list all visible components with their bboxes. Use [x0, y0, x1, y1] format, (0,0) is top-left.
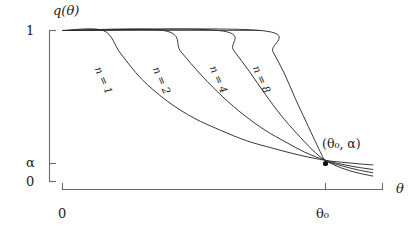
- power-function-figure: 1 α 0 q(θ) 0 θ₀ θ (θ₀, α) n = 1n = 2n = …: [0, 0, 418, 242]
- x-tick-label-zero: 0: [58, 207, 66, 220]
- x-tick-label-theta-zero: θ₀: [316, 207, 329, 220]
- power-curve-n-4: [63, 29, 373, 173]
- crossing-point-label: (θ₀, α): [322, 138, 361, 151]
- y-axis-title: q(θ): [53, 4, 79, 17]
- power-curve-n-8: [63, 29, 373, 176]
- y-tick-label-alpha: α: [26, 156, 35, 169]
- y-tick-label-zero: 0: [26, 175, 34, 188]
- y-tick-label-one: 1: [26, 24, 34, 37]
- axes-group: [50, 31, 383, 190]
- crossing-point-marker: [323, 161, 328, 166]
- x-axis-title: θ: [396, 182, 404, 195]
- power-curves-group: [63, 29, 373, 176]
